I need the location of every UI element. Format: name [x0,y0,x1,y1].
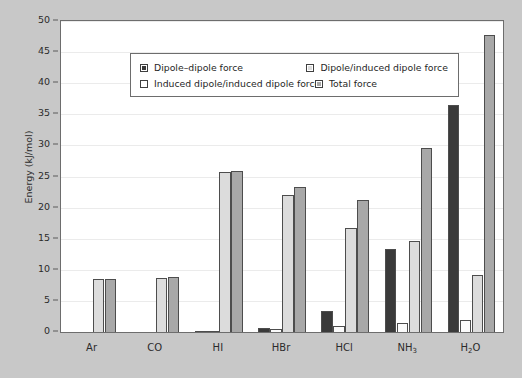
gridline [61,332,503,333]
bar-HI-series-3 [231,171,243,332]
bar-CO-series-3 [168,277,180,332]
gridline [61,177,503,178]
legend-swatch-icon [315,80,323,88]
bar-HBr-series-2 [282,195,294,332]
legend-row-2: Induced dipole/induced dipole force Tota… [140,76,449,92]
legend-row-1: Dipole–dipole force Dipole/induced dipol… [140,60,449,76]
y-axis-tick-label: 10 [38,264,50,274]
bar-NH3-series-3 [421,148,433,332]
bar-H2O-series-2 [472,275,484,332]
bar-HCl-series-1 [333,326,345,332]
bar-NH3-series-0 [385,249,397,332]
y-axis-tick-label: 35 [38,109,50,119]
bar-Ar-series-3 [105,279,117,332]
legend-item-label: Dipole/induced dipole force [320,63,447,72]
legend-item-label: Dipole–dipole force [154,63,243,72]
legend-item-label: Total force [329,79,377,88]
y-axis-tick-label: 40 [38,77,50,87]
y-axis-tick-label: 25 [38,171,50,181]
legend-swatch-icon [140,80,148,88]
gridline [61,114,503,115]
x-axis-tick-label: Ar [86,342,97,353]
bar-HCl-series-2 [345,228,357,332]
plot-panel: Dipole–dipole force Dipole/induced dipol… [60,20,504,333]
y-axis-tick-label: 15 [38,233,50,243]
bar-HI-series-2 [219,172,231,332]
y-axis-tick-mark [53,268,58,269]
bar-CO-series-2 [156,278,168,332]
bar-HBr-series-3 [294,187,306,332]
chart-legend: Dipole–dipole force Dipole/induced dipol… [130,53,459,97]
y-axis-tick-mark [53,144,58,145]
x-axis: ArCOHIHBrHClNH3H2O [60,334,504,364]
y-axis-tick-mark [53,175,58,176]
y-axis-tick-mark [53,51,58,52]
x-axis-tick-label: H2O [460,342,480,353]
bar-HCl-series-0 [321,311,333,332]
bar-Ar-series-2 [93,279,105,332]
x-axis-tick-label: CO [147,342,162,353]
legend-swatch-icon [306,64,314,72]
x-axis-tick-label: NH3 [398,342,417,353]
y-axis-tick-mark [53,237,58,238]
y-axis-tick-label: 0 [44,326,50,336]
legend-item-dipole-dipole-force[interactable]: Dipole–dipole force [140,63,306,72]
bar-HCl-series-3 [357,200,369,332]
legend-swatch-icon [140,64,148,72]
gridline [61,21,503,22]
legend-item-total-force[interactable]: Total force [315,79,449,88]
y-axis-tick-label: 30 [38,140,50,150]
legend-item-dipole-induced-dipole-force[interactable]: Dipole/induced dipole force [306,63,449,72]
y-axis-tick-mark [53,206,58,207]
y-axis-tick-label: 45 [38,46,50,56]
bar-HBr-series-1 [270,329,282,332]
x-axis-tick-label: HCl [336,342,353,353]
bar-NH3-series-1 [397,323,409,332]
y-axis-tick-mark [53,331,58,332]
gridline [61,145,503,146]
legend-item-induced-dipole-induced-dipole-force[interactable]: Induced dipole/induced dipole force [140,79,315,88]
y-axis-tick-label: 20 [38,202,50,212]
y-axis-title: Energy (kJ/mol) [23,77,34,257]
legend-item-label: Induced dipole/induced dipole force [154,79,320,88]
chart-figure: Energy (kJ/mol) 05101520253035404550 Dip… [0,0,522,378]
y-axis-tick-mark [53,82,58,83]
bar-HI-series-1 [207,331,219,332]
y-axis-tick-mark [53,299,58,300]
x-axis-tick-label: HBr [272,342,291,353]
bar-H2O-series-1 [460,320,472,332]
y-axis-tick-label: 50 [38,15,50,25]
bar-H2O-series-3 [484,35,496,332]
bar-HI-series-0 [195,331,207,332]
y-axis-tick-mark [53,113,58,114]
y-axis-tick-label: 5 [44,295,50,305]
bar-HBr-series-0 [258,328,270,332]
bar-H2O-series-0 [448,105,460,332]
bar-NH3-series-2 [409,241,421,332]
y-axis: Energy (kJ/mol) 05101520253035404550 [0,0,60,333]
y-axis-tick-mark [53,20,58,21]
x-axis-tick-label: HI [213,342,223,353]
